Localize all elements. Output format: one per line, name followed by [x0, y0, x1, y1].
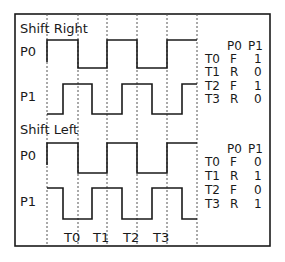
cell: 0 — [254, 92, 262, 106]
cell: F — [230, 155, 237, 169]
row-label: T2 — [204, 183, 220, 197]
col-header-p1: P1 — [248, 142, 263, 156]
cell: 1 — [254, 197, 262, 211]
cell: R — [230, 169, 238, 183]
time-label-t2: T2 — [122, 230, 139, 245]
time-label-t1: T1 — [92, 230, 109, 245]
row-label: T0 — [204, 52, 220, 66]
waveform-diagram: Shift Right P0 P1 P0 P1 T0 F 1 T1 R 0 T2… — [0, 0, 285, 262]
row-label: T2 — [204, 79, 220, 93]
waveform-p0 — [47, 40, 197, 68]
signal-label-p1: P1 — [20, 194, 36, 209]
signal-label-p0: P0 — [20, 44, 36, 59]
cell: 1 — [254, 169, 262, 183]
cell: F — [230, 52, 237, 66]
cell: 1 — [254, 52, 262, 66]
cell: R — [230, 65, 238, 79]
time-axis-labels: T0 T1 T2 T3 — [63, 230, 169, 245]
cell: 0 — [254, 183, 262, 197]
section-shift-left: Shift Left P0 P1 P0 P1 T0 F 0 T1 R 1 T2 … — [20, 122, 263, 219]
truth-table: P0 P1 T0 F 0 T1 R 1 T2 F 0 T3 R 1 — [204, 142, 263, 211]
col-header-p0: P0 — [227, 39, 242, 53]
row-label: T3 — [204, 92, 220, 106]
waveform-p1 — [47, 188, 197, 219]
section-title: Shift Right — [20, 21, 88, 36]
cell: 0 — [254, 155, 262, 169]
signal-label-p0: P0 — [20, 148, 36, 163]
col-header-p0: P0 — [227, 142, 242, 156]
row-label: T1 — [204, 65, 220, 79]
cell: F — [230, 183, 237, 197]
time-label-t0: T0 — [63, 230, 80, 245]
row-label: T0 — [204, 155, 220, 169]
row-label: T1 — [204, 169, 220, 183]
row-label: T3 — [204, 197, 220, 211]
waveform-p0 — [47, 143, 197, 173]
section-title: Shift Left — [20, 122, 78, 137]
cell: F — [230, 79, 237, 93]
signal-label-p1: P1 — [20, 89, 36, 104]
cell: R — [230, 92, 238, 106]
cell: 0 — [254, 65, 262, 79]
truth-table: P0 P1 T0 F 1 T1 R 0 T2 F 1 T3 R 0 — [204, 39, 263, 106]
cell: 1 — [254, 79, 262, 93]
cell: R — [230, 197, 238, 211]
waveform-p1 — [47, 84, 197, 114]
section-shift-right: Shift Right P0 P1 P0 P1 T0 F 1 T1 R 0 T2… — [20, 21, 263, 114]
time-label-t3: T3 — [152, 230, 169, 245]
col-header-p1: P1 — [248, 39, 263, 53]
